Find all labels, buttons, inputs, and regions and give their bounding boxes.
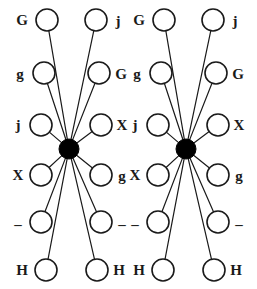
- right-star-graph: [147, 9, 229, 281]
- node-label-R-right-4: g: [235, 169, 243, 184]
- graph-node-L-left-4[interactable]: [30, 164, 52, 186]
- node-label-L-left-5: –: [14, 217, 22, 232]
- node-label-L-left-1: G: [16, 13, 28, 28]
- graph-node-L-left-6[interactable]: [35, 259, 57, 281]
- right-hub[interactable]: [176, 139, 196, 159]
- graph-node-R-right-1[interactable]: [202, 9, 224, 31]
- graph-edge: [193, 132, 209, 144]
- graph-edge: [76, 155, 92, 168]
- node-label-L-right-1: j: [116, 14, 121, 29]
- node-label-L-left-4: X: [13, 168, 24, 183]
- graph-edge: [193, 155, 209, 168]
- graph-node-L-right-5[interactable]: [90, 211, 112, 233]
- node-label-L-right-4: g: [118, 169, 126, 184]
- graph-edge: [166, 132, 179, 143]
- node-label-R-right-5: –: [235, 217, 243, 232]
- node-label-L-right-5: –: [118, 217, 126, 232]
- node-label-L-left-6: H: [16, 263, 28, 278]
- graph-node-R-right-3[interactable]: [207, 114, 229, 136]
- graph-node-R-left-2[interactable]: [150, 62, 172, 84]
- graph-edge: [73, 157, 97, 212]
- graph-node-L-left-2[interactable]: [33, 62, 55, 84]
- graph-node-L-right-1[interactable]: [85, 9, 107, 31]
- graph-edge: [190, 157, 214, 212]
- node-label-R-right-3: X: [234, 118, 245, 133]
- node-label-R-left-1: G: [133, 13, 145, 28]
- graph-node-R-left-4[interactable]: [147, 164, 169, 186]
- graph-edge: [49, 155, 62, 167]
- node-label-L-right-3: X: [117, 118, 128, 133]
- node-label-R-left-5: –: [131, 217, 139, 232]
- node-label-L-right-2: G: [115, 67, 127, 82]
- node-label-R-left-3: j: [133, 118, 138, 133]
- graph-node-R-right-2[interactable]: [205, 62, 227, 84]
- graph-node-L-right-2[interactable]: [88, 62, 110, 84]
- graph-edge: [166, 155, 179, 167]
- node-label-R-right-2: G: [232, 67, 244, 82]
- left-star-graph: [30, 9, 112, 281]
- node-label-L-right-6: H: [113, 263, 125, 278]
- graph-edge: [49, 132, 62, 143]
- node-label-R-left-2: g: [133, 67, 141, 82]
- graph-node-L-right-6[interactable]: [86, 259, 108, 281]
- node-label-R-left-4: X: [130, 168, 141, 183]
- left-hub[interactable]: [59, 139, 79, 159]
- node-label-L-left-2: g: [16, 67, 24, 82]
- graph-node-L-left-1[interactable]: [36, 9, 58, 31]
- graph-edge: [76, 132, 92, 144]
- graph-node-L-right-4[interactable]: [90, 164, 112, 186]
- node-label-R-right-1: j: [233, 14, 238, 29]
- graph-node-R-left-5[interactable]: [147, 211, 169, 233]
- graph-node-R-left-6[interactable]: [152, 259, 174, 281]
- graph-node-L-right-3[interactable]: [90, 114, 112, 136]
- node-label-L-left-3: j: [16, 118, 21, 133]
- node-label-R-right-6: H: [230, 263, 242, 278]
- graph-node-R-right-6[interactable]: [203, 259, 225, 281]
- node-label-R-left-6: H: [133, 263, 145, 278]
- graph-node-L-left-5[interactable]: [30, 211, 52, 233]
- graph-node-R-left-1[interactable]: [153, 9, 175, 31]
- diagram-canvas: GgjX–HjGXg–HGgjX–HjGXg–H: [0, 0, 257, 289]
- graph-node-R-left-3[interactable]: [147, 114, 169, 136]
- star-graph-svg: [0, 0, 257, 289]
- graph-node-R-right-4[interactable]: [207, 164, 229, 186]
- graph-node-L-left-3[interactable]: [30, 114, 52, 136]
- graph-node-R-right-5[interactable]: [207, 211, 229, 233]
